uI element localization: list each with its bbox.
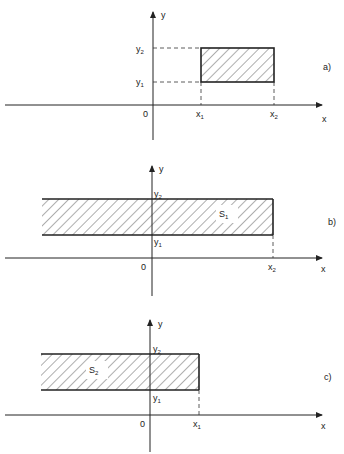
x1-label: x1 [196,109,205,120]
y2-label: y2 [154,189,163,200]
y1-label: y1 [136,77,145,88]
x-axis-label: x [322,114,327,124]
x2-label: x2 [268,262,277,273]
y-axis-label: y [161,10,166,20]
panel-b: S1 y x 0 y2 y1 x2 b) [5,164,336,296]
y-axis-label: y [159,164,164,174]
y-axis-label: y [158,319,163,329]
region-rect [42,199,273,235]
x-axis-label: x [321,264,326,274]
origin-label: 0 [140,419,145,429]
region-rect [201,48,274,82]
x2-label: x2 [270,109,279,120]
diagram-canvas: y x 0 y2 y1 x1 x2 a) S1 y x 0 y2 y1 x2 b… [0,0,344,454]
panel-label: a) [323,62,331,72]
panel-label: c) [324,372,332,382]
y1-label: y1 [153,393,162,404]
panel-c: S2 y x 0 y2 y1 x1 c) [5,319,332,452]
region-rect [41,354,199,390]
origin-label: 0 [141,262,146,272]
y2-label: y2 [153,344,162,355]
y1-label: y1 [154,237,163,248]
origin-label: 0 [143,109,148,119]
x-axis-label: x [321,421,326,431]
panel-label: b) [328,217,336,227]
panel-a: y x 0 y2 y1 x1 x2 a) [5,10,331,140]
x1-label: x1 [193,419,202,430]
y2-label: y2 [136,44,145,55]
